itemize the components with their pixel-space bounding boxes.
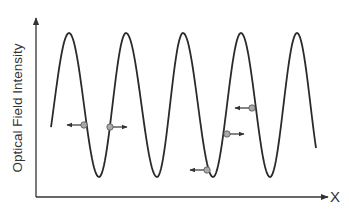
x-axis-label: X [330,188,340,205]
particle-3 [190,167,210,173]
particle-dot-icon [81,122,87,128]
y-axis-label: Optical Field Intensity [5,18,29,198]
particle-4 [224,131,244,137]
particle-dot-icon [249,105,255,111]
particle-dot-icon [204,167,210,173]
particle-1 [67,122,87,128]
intensity-wave-curve [51,33,316,177]
particle-dot-icon [107,124,113,130]
particles-group [67,105,255,173]
particle-5 [235,105,255,111]
optical-trap-diagram [0,0,349,210]
y-axis-label-text: Optical Field Intensity [10,43,25,172]
particle-dot-icon [224,131,230,137]
particle-2 [107,124,127,130]
